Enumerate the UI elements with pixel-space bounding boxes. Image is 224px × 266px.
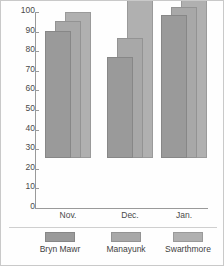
x-axis-label: Nov. (40, 211, 96, 220)
y-tick-mark (35, 51, 39, 52)
legend-item[interactable]: Bryn Mawr (23, 232, 97, 254)
y-tick-mark (35, 208, 39, 209)
legend-label: Swarthmore (151, 245, 224, 254)
bar-bryn-mawr[interactable] (45, 31, 71, 158)
bar-bryn-mawr[interactable] (161, 15, 187, 158)
y-tick: 20 (1, 169, 45, 170)
y-tick-mark (35, 32, 39, 33)
y-tick-label: 40 (26, 124, 35, 133)
y-tick-mark (35, 90, 39, 91)
bar-bryn-mawr[interactable] (107, 57, 133, 158)
y-tick-label: 80 (26, 45, 35, 54)
y-tick: 40 (1, 130, 45, 131)
y-tick: 10 (1, 188, 45, 189)
y-tick: 30 (1, 149, 45, 150)
y-tick-label: 70 (26, 65, 35, 74)
plot-area: 1009080706050403020100 Nov.Dec.Jan. (1, 1, 224, 217)
legend-swatch-icon (173, 232, 203, 242)
y-tick-label: 50 (26, 104, 35, 113)
y-tick-mark (35, 188, 39, 189)
bar-group (107, 0, 163, 158)
y-tick-mark (35, 169, 39, 170)
y-tick: 0 (1, 208, 45, 209)
legend-item[interactable]: Swarthmore (151, 232, 224, 254)
y-tick-mark (35, 110, 39, 111)
y-tick: 100 (1, 12, 45, 13)
y-tick: 60 (1, 90, 45, 91)
y-tick: 50 (1, 110, 45, 111)
chart-figure: 1009080706050403020100 Nov.Dec.Jan. Bryn… (0, 0, 224, 266)
bar-group (161, 0, 217, 158)
y-tick: 80 (1, 51, 45, 52)
legend-divider (9, 227, 217, 228)
legend-label: Bryn Mawr (23, 245, 97, 254)
y-tick-label: 20 (26, 163, 35, 172)
y-tick-label: 10 (26, 182, 35, 191)
legend-swatch-icon (45, 232, 75, 242)
y-tick: 90 (1, 32, 45, 33)
y-tick-label: 30 (26, 143, 35, 152)
y-tick: 70 (1, 71, 45, 72)
y-tick-mark (35, 12, 39, 13)
y-tick-label: 60 (26, 84, 35, 93)
legend-swatch-icon (111, 232, 141, 242)
x-axis-label: Jan. (156, 211, 212, 220)
bar-group (45, 0, 101, 158)
y-tick-mark (35, 130, 39, 131)
y-tick-mark (35, 71, 39, 72)
x-axis-line (35, 208, 208, 209)
y-tick-label: 0 (30, 202, 35, 211)
x-axis-label: Dec. (102, 211, 158, 220)
y-tick-mark (35, 149, 39, 150)
chart-legend: Bryn MawrManayunkSwarthmore (1, 232, 224, 264)
y-tick-label: 100 (21, 6, 35, 15)
y-tick-label: 90 (26, 26, 35, 35)
